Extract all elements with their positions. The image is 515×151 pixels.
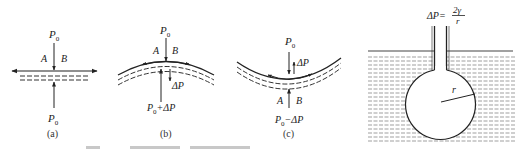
capillary-tube-bore [434, 26, 447, 71]
laplace-pressure-figure: P0 A B P0 (a) P0 A B ΔP P0+ΔP (b) P0 [0, 0, 515, 151]
panel-a-caption: (a) [47, 128, 58, 140]
delta-p-label: ΔP [296, 57, 309, 68]
side-a-label: A [276, 95, 284, 106]
panel-b: P0 A B ΔP P0+ΔP (b) [118, 24, 214, 140]
panel-a: P0 A B P0 (a) [12, 28, 97, 140]
panel-b-caption: (b) [160, 128, 172, 140]
panel-c: P0 ΔP A B P0−ΔP (c) [237, 35, 341, 140]
panel-b-bottom-pressure-label: P0+ΔP [146, 102, 175, 116]
delta-p-label: ΔP [171, 80, 184, 91]
panel-bubble: ΔP= 2γ r [368, 5, 515, 141]
side-b-label: B [61, 53, 67, 64]
laplace-formula-lhs: ΔP= [426, 10, 446, 21]
laplace-formula-denominator: r [456, 16, 460, 26]
panel-a-top-pressure-label: P0 [48, 28, 60, 43]
radius-label: r [452, 84, 456, 95]
panel-b-top-pressure-label: P0 [159, 24, 171, 39]
laplace-formula-numerator: 2γ [453, 5, 462, 15]
faded-figure-caption [86, 146, 250, 149]
bubble-circle [406, 70, 476, 139]
bubble-neck [435, 66, 445, 72]
panel-a-bottom-pressure-label: P0 [47, 112, 59, 127]
side-a-label: A [40, 53, 48, 64]
side-a-label: A [152, 45, 160, 56]
panel-c-top-pressure-label: P0 [284, 35, 296, 50]
side-b-label: B [296, 95, 302, 106]
panel-c-bottom-pressure-label: P0−ΔP [274, 114, 303, 128]
panel-c-caption: (c) [283, 128, 294, 140]
side-b-label: B [172, 45, 178, 56]
